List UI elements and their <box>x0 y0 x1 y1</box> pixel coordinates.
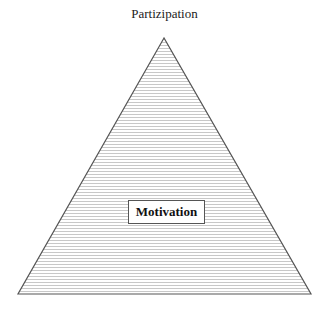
motivation-label-box: Motivation <box>128 200 205 224</box>
center-label: Motivation <box>136 204 197 220</box>
pyramid-shape <box>0 0 329 316</box>
